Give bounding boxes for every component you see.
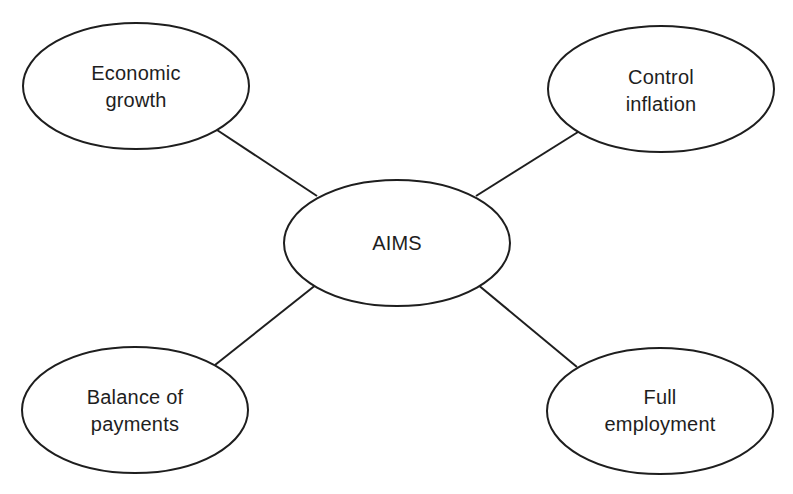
connector-control-inflation bbox=[476, 132, 578, 196]
label-line: Full bbox=[560, 384, 760, 411]
label-line: employment bbox=[560, 411, 760, 438]
node-balance-of-payments-label: Balance of payments bbox=[35, 384, 235, 438]
label-line: growth bbox=[36, 87, 236, 114]
node-economic-growth-label: Economic growth bbox=[36, 60, 236, 114]
label-line: inflation bbox=[561, 91, 761, 118]
label-line: Control bbox=[561, 64, 761, 91]
node-aims-label: AIMS bbox=[297, 230, 497, 257]
node-full-employment-label: Full employment bbox=[560, 384, 760, 438]
connector-balance-of-payments bbox=[215, 284, 317, 365]
node-control-inflation-label: Control inflation bbox=[561, 64, 761, 118]
label-line: AIMS bbox=[297, 230, 497, 257]
connector-full-employment bbox=[477, 284, 577, 367]
label-line: Balance of bbox=[35, 384, 235, 411]
label-line: payments bbox=[35, 411, 235, 438]
connector-economic-growth bbox=[214, 128, 317, 196]
label-line: Economic bbox=[36, 60, 236, 87]
